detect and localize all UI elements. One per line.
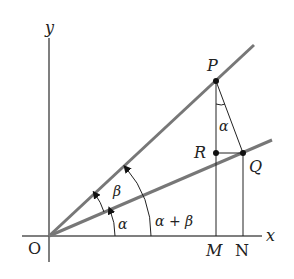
point-r-label: R (193, 143, 206, 162)
angle-sum-diagram: y x O P Q R M N α α β α + β (0, 0, 294, 279)
point-p (213, 78, 219, 84)
point-m-label: M (205, 241, 223, 260)
y-axis-label: y (44, 18, 55, 37)
x-axis-label: x (266, 226, 275, 245)
origin-label: O (28, 239, 41, 258)
angle-arc-beta (95, 194, 104, 212)
segment-pq (216, 81, 243, 153)
angle-arc-alpha (110, 210, 115, 236)
beta-at-o-label: β (112, 183, 121, 199)
ray-op (49, 45, 254, 236)
angle-arc-alpha-p (216, 104, 225, 105)
point-n-label: N (235, 241, 249, 260)
point-q-label: Q (249, 157, 262, 176)
alpha-plus-beta-label: α + β (155, 213, 193, 229)
alpha-at-o-label: α (118, 216, 128, 232)
alpha-at-p-label: α (219, 118, 229, 134)
point-p-label: P (206, 56, 218, 75)
point-q (240, 150, 246, 156)
point-r (213, 150, 219, 156)
